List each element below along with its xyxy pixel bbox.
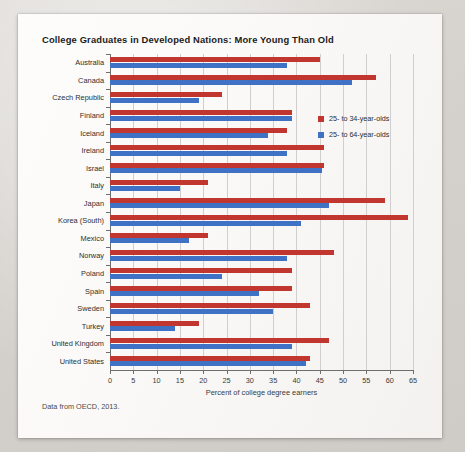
y-tick-mark	[106, 54, 110, 55]
bar-all	[110, 186, 180, 191]
y-tick-mark	[106, 194, 110, 195]
bar-all	[110, 309, 273, 314]
bar-all	[110, 344, 292, 349]
x-tick-mark	[366, 370, 367, 374]
x-tick-label: 65	[409, 376, 417, 385]
gridline	[343, 54, 344, 370]
bar-all	[110, 326, 175, 331]
bar-young	[110, 338, 329, 343]
source-caption: Data from OECD, 2013.	[42, 402, 119, 411]
category-label: Japan	[84, 199, 104, 208]
y-tick-mark	[106, 352, 110, 353]
x-tick-label: 10	[153, 376, 161, 385]
legend-item: 25- to 34-year-olds	[318, 114, 428, 123]
y-tick-mark	[106, 124, 110, 125]
y-tick-mark	[106, 300, 110, 301]
x-tick-mark	[110, 370, 111, 374]
bar-young	[110, 321, 199, 326]
category-label: Sweden	[77, 304, 104, 313]
bar-young	[110, 250, 334, 255]
x-tick-mark	[390, 370, 391, 374]
x-tick-label: 60	[386, 376, 394, 385]
legend-label-young: 25- to 34-year-olds	[329, 114, 389, 123]
category-label: Mexico	[81, 234, 104, 243]
bar-all	[110, 168, 322, 173]
bar-all	[110, 291, 259, 296]
category-axis-labels: AustraliaCanadaCzech RepublicFinlandIcel…	[18, 54, 104, 370]
x-tick-mark	[180, 370, 181, 374]
x-tick-mark	[320, 370, 321, 374]
gridline	[227, 54, 228, 370]
category-label: Australia	[75, 58, 104, 67]
gridline	[390, 54, 391, 370]
y-tick-mark	[106, 282, 110, 283]
bar-all	[110, 203, 329, 208]
gridline	[296, 54, 297, 370]
category-label: Spain	[85, 287, 104, 296]
y-tick-mark	[106, 72, 110, 73]
x-tick-mark	[157, 370, 158, 374]
page-background: College Graduates in Developed Nations: …	[0, 0, 465, 452]
bar-young	[110, 356, 310, 361]
bar-young	[110, 110, 292, 115]
x-tick-label: 40	[292, 376, 300, 385]
gridline	[320, 54, 321, 370]
bar-all	[110, 274, 222, 279]
chart-title: College Graduates in Developed Nations: …	[42, 34, 334, 45]
bar-all	[110, 98, 199, 103]
x-tick-label: 55	[362, 376, 370, 385]
y-tick-mark	[106, 177, 110, 178]
x-axis-title: Percent of college degree earners	[110, 388, 413, 397]
x-tick-mark	[250, 370, 251, 374]
bar-young	[110, 57, 320, 62]
bar-young	[110, 286, 292, 291]
category-label: Canada	[78, 76, 104, 85]
bar-young	[110, 75, 376, 80]
gridline	[273, 54, 274, 370]
x-tick-label: 45	[316, 376, 324, 385]
legend-item: 25- to 64-year-olds	[318, 130, 428, 139]
y-tick-mark	[106, 317, 110, 318]
bar-young	[110, 163, 324, 168]
y-tick-mark	[106, 107, 110, 108]
x-tick-mark	[133, 370, 134, 374]
x-axis-line	[110, 370, 413, 371]
bar-all	[110, 133, 268, 138]
x-tick-label: 5	[131, 376, 135, 385]
y-tick-mark	[106, 265, 110, 266]
y-tick-mark	[106, 230, 110, 231]
bar-all	[110, 221, 301, 226]
y-tick-mark	[106, 247, 110, 248]
bar-all	[110, 63, 287, 68]
bar-young	[110, 215, 408, 220]
x-tick-mark	[296, 370, 297, 374]
category-label: Finland	[80, 111, 104, 120]
category-label: United States	[60, 357, 104, 366]
x-tick-label: 30	[246, 376, 254, 385]
legend-swatch-all	[318, 132, 324, 138]
y-tick-mark	[106, 142, 110, 143]
bar-all	[110, 361, 306, 366]
bar-young	[110, 303, 310, 308]
x-tick-label: 20	[199, 376, 207, 385]
x-tick-label: 35	[269, 376, 277, 385]
x-tick-mark	[227, 370, 228, 374]
category-label: Turkey	[82, 322, 104, 331]
bar-young	[110, 268, 292, 273]
bar-young	[110, 92, 222, 97]
bar-young	[110, 145, 324, 150]
y-tick-mark	[106, 212, 110, 213]
bar-all	[110, 116, 292, 121]
category-label: Poland	[81, 269, 104, 278]
legend-swatch-young	[318, 116, 324, 122]
chart-card: College Graduates in Developed Nations: …	[18, 14, 442, 438]
bar-all	[110, 151, 287, 156]
x-tick-label: 15	[176, 376, 184, 385]
bar-young	[110, 180, 208, 185]
category-label: Iceland	[80, 129, 104, 138]
x-tick-mark	[413, 370, 414, 374]
y-tick-mark	[106, 89, 110, 90]
x-tick-mark	[343, 370, 344, 374]
bar-young	[110, 198, 385, 203]
gridline	[250, 54, 251, 370]
